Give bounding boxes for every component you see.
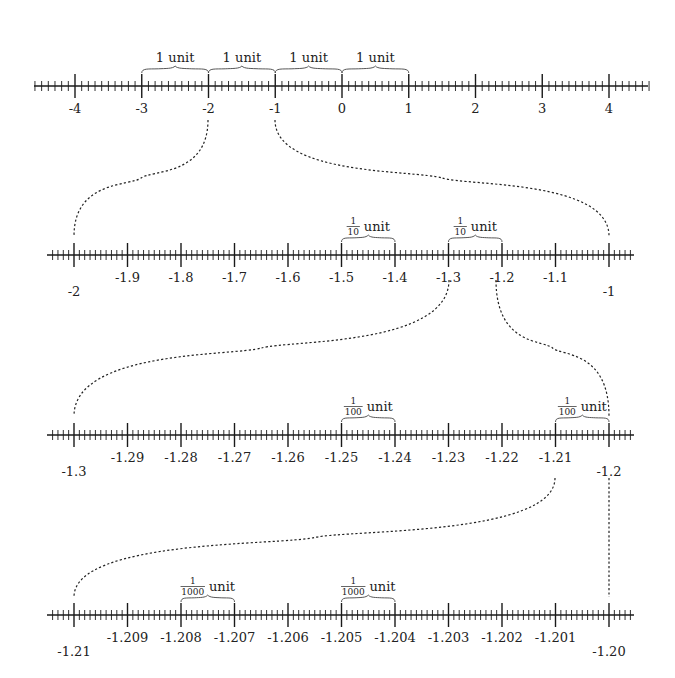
tick-label: 1	[405, 101, 413, 116]
tick-label: 0	[338, 101, 346, 116]
tick-label: -1.1	[543, 270, 568, 285]
tick-label: -1.27	[218, 450, 251, 465]
number-line-zoom-diagram: -4-3-2-1012341 unit1 unit1 unit1 unit-2-…	[0, 0, 675, 678]
tick-label: -1	[603, 284, 616, 299]
brace-label: 1 unit	[223, 50, 262, 65]
tick-label: -1.207	[214, 630, 256, 645]
brace-label: 1 unit	[289, 50, 328, 65]
fraction-denominator: 100	[559, 407, 576, 417]
tick-label: -1.201	[535, 630, 577, 645]
unit-text: 1 unit	[223, 50, 262, 65]
tick-label: -1.24	[378, 450, 411, 465]
tick-label: -1.203	[428, 630, 470, 645]
tick-label: -1.9	[115, 270, 140, 285]
tick-label: -1.23	[432, 450, 465, 465]
zoom-connectors	[74, 120, 609, 597]
zoom-connector-curve	[496, 280, 609, 416]
tick-label: -1.7	[222, 270, 247, 285]
fraction-numerator: 1	[350, 576, 356, 586]
interval-brace	[275, 66, 342, 73]
tick-label: 4	[605, 101, 613, 116]
tick-label: -1.202	[481, 630, 523, 645]
fraction-numerator: 1	[190, 576, 196, 586]
brace-label: 11000unit	[341, 576, 396, 597]
fraction-denominator: 10	[348, 227, 360, 237]
tick-label: -1.21	[57, 644, 90, 659]
brace-label: 1 unit	[356, 50, 395, 65]
unit-text: 1 unit	[289, 50, 328, 65]
tick-label: -1.25	[325, 450, 358, 465]
brace-label: 11000unit	[181, 576, 236, 597]
tick-label: -3	[135, 101, 148, 116]
brace-label: 1100unit	[344, 396, 394, 417]
tick-label: -1.3	[436, 270, 461, 285]
tick-label: -1.8	[168, 270, 193, 285]
tick-label: -1	[269, 101, 282, 116]
fraction-numerator: 1	[564, 396, 570, 406]
unit-text: unit	[369, 579, 396, 594]
fraction-numerator: 1	[457, 216, 463, 226]
zoom-connector-curve	[74, 120, 208, 236]
tick-label: -1.5	[329, 270, 354, 285]
tick-label: -2	[68, 284, 81, 299]
unit-text: unit	[364, 219, 391, 234]
brace-label: 110unit	[347, 216, 391, 237]
brace-label: 1 unit	[156, 50, 195, 65]
tick-label: -1.205	[321, 630, 363, 645]
tick-label: -1.204	[374, 630, 416, 645]
unit-text: unit	[471, 219, 498, 234]
tick-label: -2	[202, 101, 215, 116]
fraction-denominator: 10	[455, 227, 467, 237]
unit-text: unit	[209, 579, 236, 594]
tick-label: -1.29	[111, 450, 144, 465]
tick-label: -1.2	[489, 270, 514, 285]
tick-label: -4	[69, 101, 82, 116]
unit-text: unit	[581, 399, 608, 414]
number-line-4: -1.21-1.209-1.208-1.207-1.206-1.205-1.20…	[47, 576, 634, 659]
tick-label: -1.206	[267, 630, 309, 645]
interval-brace	[209, 66, 276, 73]
tick-label: -1.26	[271, 450, 304, 465]
fraction-denominator: 100	[345, 407, 362, 417]
zoom-connector-curve	[275, 120, 609, 236]
tick-label: 2	[471, 101, 479, 116]
tick-label: -1.21	[539, 450, 572, 465]
number-line-1: -4-3-2-1012341 unit1 unit1 unit1 unit	[34, 50, 649, 116]
brace-label: 1100unit	[558, 396, 608, 417]
number-line-3: -1.3-1.29-1.28-1.27-1.26-1.25-1.24-1.23-…	[47, 396, 634, 479]
tick-label: -1.4	[382, 270, 407, 285]
unit-text: 1 unit	[356, 50, 395, 65]
tick-label: 3	[538, 101, 546, 116]
interval-brace	[142, 66, 209, 73]
tick-label: -1.3	[61, 464, 86, 479]
tick-label: -1.6	[275, 270, 300, 285]
tick-label: -1.209	[107, 630, 149, 645]
tick-label: -1.208	[160, 630, 202, 645]
fraction-numerator: 1	[350, 216, 356, 226]
brace-label: 110unit	[454, 216, 498, 237]
diagram-canvas: -4-3-2-1012341 unit1 unit1 unit1 unit-2-…	[0, 0, 675, 678]
zoom-connector-curve	[74, 478, 555, 597]
unit-text: unit	[367, 399, 394, 414]
fraction-denominator: 1000	[342, 587, 365, 597]
number-line-2: -2-1.9-1.8-1.7-1.6-1.5-1.4-1.3-1.2-1.1-1…	[47, 216, 634, 299]
tick-label: -1.22	[485, 450, 518, 465]
unit-text: 1 unit	[156, 50, 195, 65]
interval-brace	[342, 66, 409, 73]
fraction-numerator: 1	[350, 396, 356, 406]
tick-label: -1.2	[596, 464, 621, 479]
tick-label: -1.20	[592, 644, 625, 659]
fraction-denominator: 1000	[181, 587, 204, 597]
tick-label: -1.28	[164, 450, 197, 465]
zoom-connector-curve	[74, 280, 449, 416]
